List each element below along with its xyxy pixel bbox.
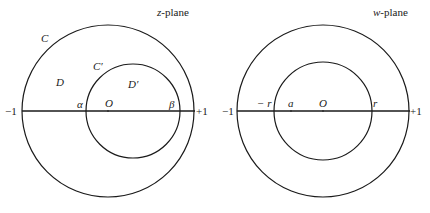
- z-label-plus-one: +1: [196, 105, 208, 117]
- w-plane-title: w-plane: [373, 6, 408, 18]
- z-label-minus-one: −1: [5, 105, 17, 117]
- z-label-alpha: α: [77, 98, 83, 110]
- w-label-minus-one: −1: [222, 105, 234, 117]
- w-label-a: a: [288, 97, 294, 109]
- w-plane-figure: w-plane − r a O r −1 +1: [222, 6, 422, 197]
- diagram-canvas: z-plane C C′ D D′ α O β −1 +1 w-plane − …: [0, 0, 430, 213]
- z-plane-title: z-plane: [156, 6, 189, 18]
- w-label-plus-one: +1: [410, 105, 422, 117]
- z-label-D-prime: D′: [127, 78, 139, 90]
- z-label-D: D: [55, 76, 64, 88]
- w-label-r: r: [373, 97, 378, 109]
- w-label-O: O: [319, 97, 327, 109]
- w-a-dot: [290, 110, 292, 112]
- z-plane-figure: z-plane C C′ D D′ α O β −1 +1: [5, 6, 208, 197]
- z-label-beta: β: [168, 98, 175, 110]
- z-label-C-prime: C′: [93, 60, 103, 72]
- w-origin-dot: [322, 110, 324, 112]
- z-origin-dot: [107, 110, 109, 112]
- z-label-C: C: [41, 32, 49, 44]
- z-label-O: O: [105, 97, 113, 109]
- w-label-minus-r: − r: [257, 97, 272, 109]
